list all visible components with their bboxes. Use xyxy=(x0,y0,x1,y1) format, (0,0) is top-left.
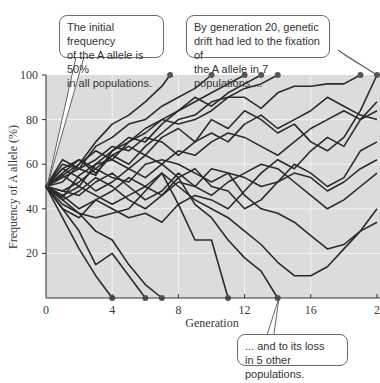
callout-fixation: By generation 20, genetic drift had led … xyxy=(186,15,330,58)
callout-line: ... and to its loss xyxy=(245,339,340,353)
fixation-dot xyxy=(357,72,363,78)
x-tick-label: 0 xyxy=(43,303,49,317)
callout-line: the A allele in 7 populations ... xyxy=(194,62,322,90)
callout-line: of the A allele is 50% xyxy=(67,48,156,76)
callout-line: drift had led to the fixation of xyxy=(194,34,322,62)
x-tick-label: 16 xyxy=(305,303,317,317)
y-tick-label: 60 xyxy=(26,157,38,171)
y-axis-label: Frequency of A allele (%) xyxy=(6,125,20,249)
callout-loss: ... and to its loss in 5 other populatio… xyxy=(237,334,348,366)
callout-line: in 5 other populations. xyxy=(245,353,340,381)
x-tick-label: 2 xyxy=(374,303,380,317)
x-axis-label: Generation xyxy=(185,316,238,330)
y-tick-label: 20 xyxy=(26,246,38,260)
x-tick-label: 8 xyxy=(175,303,181,317)
callout-line: By generation 20, genetic xyxy=(194,20,322,34)
callout-initial-frequency: The initial frequency of the A allele is… xyxy=(59,15,164,58)
x-tick-label: 4 xyxy=(109,303,115,317)
fixation-dot xyxy=(167,72,173,78)
y-tick-label: 40 xyxy=(26,202,38,216)
x-tick-label: 12 xyxy=(239,303,251,317)
callout-line: The initial frequency xyxy=(67,20,156,48)
y-tick-label: 100 xyxy=(20,68,38,82)
y-tick-label: 80 xyxy=(26,113,38,127)
callout-line: in all populations. xyxy=(67,76,156,90)
